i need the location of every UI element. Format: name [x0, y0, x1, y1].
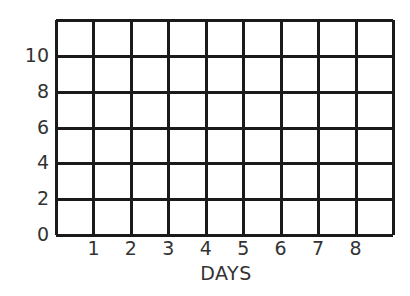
x-tick-label: 1: [83, 238, 103, 258]
y-tick-label: 10: [9, 45, 49, 65]
x-tick-label: 7: [308, 238, 328, 258]
grid-horizontal-line: [56, 127, 393, 130]
x-tick-label: 3: [158, 238, 178, 258]
grid-horizontal-line: [56, 198, 393, 201]
grid-horizontal-line: [56, 91, 393, 94]
y-tick-label: 6: [9, 117, 49, 137]
x-tick-label: 2: [121, 238, 141, 258]
grid-horizontal-line: [56, 19, 393, 22]
chart: 1086420 12345678 DAYS: [0, 0, 410, 296]
grid-horizontal-line: [56, 55, 393, 58]
chart-grid: [56, 20, 393, 235]
x-tick-label: 6: [271, 238, 291, 258]
x-tick-label: 4: [196, 238, 216, 258]
grid-horizontal-line: [56, 234, 393, 237]
y-tick-label: 2: [9, 188, 49, 208]
x-tick-label: 8: [346, 238, 366, 258]
x-tick-label: 5: [233, 238, 253, 258]
y-tick-label: 0: [9, 224, 49, 244]
x-axis-title: DAYS: [190, 263, 262, 283]
y-tick-label: 4: [9, 152, 49, 172]
y-tick-label: 8: [9, 81, 49, 101]
grid-horizontal-line: [56, 162, 393, 165]
